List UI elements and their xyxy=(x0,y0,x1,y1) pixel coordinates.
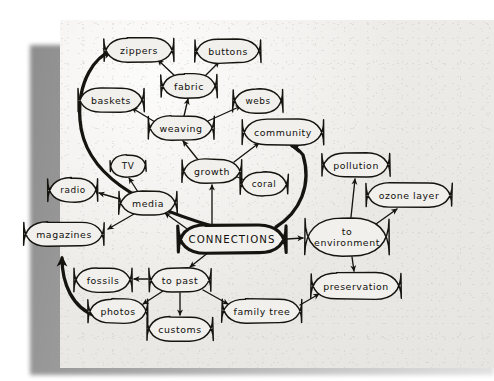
node-coral[interactable]: coral xyxy=(240,172,288,196)
node-zippers[interactable]: zippers xyxy=(104,38,174,63)
screenshot-canvas: zippersbuttonsfabricbasketswebsweavingco… xyxy=(0,0,494,381)
node-photos[interactable]: photos xyxy=(88,299,148,324)
node-connections[interactable]: CONNECTIONS xyxy=(178,225,286,254)
node-label-growth: growth xyxy=(194,166,230,177)
node-webs[interactable]: webs xyxy=(233,89,283,114)
node-label-photos: photos xyxy=(100,306,135,317)
edge-growth-to-weaving xyxy=(183,141,199,161)
node-label-radio: radio xyxy=(60,185,85,195)
node-baskets[interactable]: baskets xyxy=(78,88,144,112)
node-tv[interactable]: TV xyxy=(110,155,146,178)
edge-weaving-to-fabric xyxy=(184,99,188,116)
node-ozone_layer[interactable]: ozone layer xyxy=(366,183,452,208)
node-label-fabric: fabric xyxy=(174,81,204,92)
node-label-community: community xyxy=(254,127,312,138)
node-label-to_env: environment xyxy=(314,237,380,248)
edge-to_env-to-pollution xyxy=(351,179,355,217)
node-radio[interactable]: radio xyxy=(48,178,98,203)
node-fossils[interactable]: fossils xyxy=(74,268,132,292)
node-magazines[interactable]: magazines xyxy=(24,222,105,246)
edge-weaving-to-baskets xyxy=(132,108,155,122)
edge-media-to-magazines xyxy=(108,214,134,229)
node-label-ozone_layer: ozone layer xyxy=(379,190,440,201)
node-label-buttons: buttons xyxy=(208,46,248,57)
node-label-magazines: magazines xyxy=(36,229,92,240)
edge-to_env-to-ozone_layer xyxy=(376,209,397,224)
node-label-zippers: zippers xyxy=(120,45,158,56)
node-label-coral: coral xyxy=(252,179,277,189)
node-label-connections: CONNECTIONS xyxy=(189,234,276,245)
edge-weaving-to-webs xyxy=(208,106,241,121)
node-preservation[interactable]: preservation xyxy=(311,273,402,300)
node-to_env[interactable]: toenvironment xyxy=(305,218,390,256)
node-label-family_tree: family tree xyxy=(234,306,291,317)
edge-to_env-to-preservation xyxy=(352,257,354,271)
node-to_past[interactable]: to past xyxy=(149,268,211,292)
node-buttons[interactable]: buttons xyxy=(195,39,261,63)
edge-growth-to-community xyxy=(234,143,259,162)
node-label-preservation: preservation xyxy=(323,281,389,292)
node-label-weaving: weaving xyxy=(159,123,202,134)
node-community[interactable]: community xyxy=(242,119,324,145)
edge-connections-to-to_env xyxy=(287,238,303,239)
node-fabric[interactable]: fabric xyxy=(161,74,218,99)
node-media[interactable]: media xyxy=(119,191,178,215)
edge-media-to-tv xyxy=(129,178,138,192)
node-layer: zippersbuttonsfabricbasketswebsweavingco… xyxy=(24,38,453,342)
node-label-to_past: to past xyxy=(162,275,199,286)
edge-to_past-to-photos xyxy=(143,291,163,304)
node-pollution[interactable]: pollution xyxy=(322,153,390,177)
node-label-to_env: to xyxy=(342,226,353,237)
node-customs[interactable]: customs xyxy=(147,317,213,342)
node-label-pollution: pollution xyxy=(333,160,379,171)
node-weaving[interactable]: weaving xyxy=(148,116,214,141)
node-label-webs: webs xyxy=(245,96,270,106)
concept-map-diagram: zippersbuttonsfabricbasketswebsweavingco… xyxy=(0,0,494,381)
node-family_tree[interactable]: family tree xyxy=(222,299,302,324)
node-label-customs: customs xyxy=(158,324,201,335)
edge-media-to-radio xyxy=(99,193,120,199)
edge-to_past-to-family_tree xyxy=(203,290,228,304)
edge-family_tree-to-preservation xyxy=(300,294,319,305)
node-label-fossils: fossils xyxy=(87,275,120,286)
node-label-baskets: baskets xyxy=(91,95,131,106)
node-growth[interactable]: growth xyxy=(182,159,242,183)
node-label-tv: TV xyxy=(121,161,135,171)
node-label-media: media xyxy=(132,198,164,209)
